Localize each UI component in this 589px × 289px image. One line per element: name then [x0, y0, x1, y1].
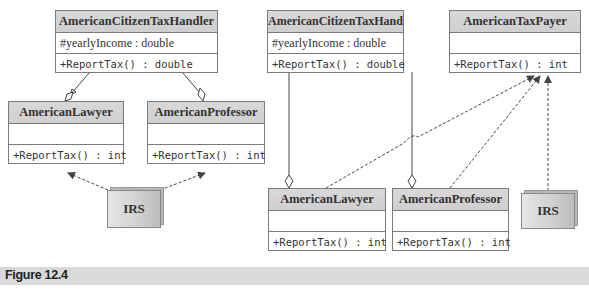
- class-operation: +ReportTax() : int: [9, 145, 123, 165]
- class-american-professor-left: AmericanProfessor +ReportTax() : int: [147, 101, 265, 164]
- right-dependency-professor: [450, 76, 540, 188]
- irs-label: IRS: [107, 190, 161, 228]
- class-attribute: [9, 124, 123, 145]
- class-attribute: [148, 124, 264, 145]
- class-operation: +ReportTax() : int: [450, 54, 580, 74]
- right-aggregation-professor: [408, 72, 416, 188]
- class-operation: +ReportTax() : double: [56, 54, 217, 74]
- class-operation: +ReportTax() : int: [148, 145, 264, 165]
- class-name: AmericanLawyer: [269, 189, 385, 211]
- left-dependency-professor: [160, 173, 205, 190]
- left-aggregation-lawyer: [65, 72, 90, 101]
- class-attribute: [450, 33, 580, 54]
- left-aggregation-professor: [182, 72, 205, 101]
- class-american-professor-right: AmericanProfessor +ReportTax() : int: [392, 188, 509, 251]
- figure: AmericanCitizenTaxHandler #yearlyIncome …: [0, 0, 589, 289]
- figure-caption: Figure 12.4: [5, 268, 68, 282]
- class-name: AmericanProfessor: [148, 102, 264, 124]
- class-name: AmericanCitizenTaxHandler: [268, 11, 403, 33]
- right-aggregation-lawyer: [285, 72, 293, 188]
- class-operation: +ReportTax() : double: [268, 54, 403, 74]
- class-american-lawyer-right: AmericanLawyer +ReportTax() : int: [268, 188, 386, 251]
- class-attribute: [269, 211, 385, 232]
- irs-component-right: IRS: [521, 193, 575, 229]
- class-attribute: [393, 211, 508, 232]
- class-american-citizen-tax-handler-left: AmericanCitizenTaxHandler #yearlyIncome …: [55, 10, 218, 73]
- right-dependency-lawyer: [326, 76, 534, 188]
- class-name: AmericanLawyer: [9, 102, 123, 124]
- class-american-tax-payer: AmericanTaxPayer +ReportTax() : int: [449, 10, 581, 73]
- class-operation: +ReportTax() : int: [393, 232, 508, 252]
- class-attribute: #yearlyIncome : double: [268, 33, 403, 54]
- figure-caption-bar: Figure 12.4: [0, 267, 589, 285]
- class-name: AmericanProfessor: [393, 189, 508, 211]
- class-name: AmericanTaxPayer: [450, 11, 580, 33]
- class-operation: +ReportTax() : int: [269, 232, 385, 252]
- class-name: AmericanCitizenTaxHandler: [56, 11, 217, 33]
- irs-component-left: IRS: [107, 190, 161, 228]
- class-american-citizen-tax-handler-right: AmericanCitizenTaxHandler #yearlyIncome …: [267, 10, 404, 73]
- class-attribute: #yearlyIncome : double: [56, 33, 217, 54]
- class-american-lawyer-left: AmericanLawyer +ReportTax() : int: [8, 101, 124, 164]
- irs-label: IRS: [521, 193, 575, 229]
- left-dependency-lawyer: [68, 173, 108, 190]
